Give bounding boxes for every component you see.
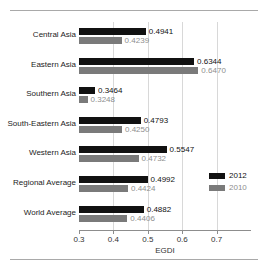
- bottom-divider: [10, 259, 258, 260]
- legend-item-2010[interactable]: 2010: [209, 183, 259, 193]
- legend-swatch-icon: [209, 173, 225, 179]
- bar-value-label: 0.4992: [151, 175, 175, 184]
- plot-area: Central Asia0.49410.4239Eastern Asia0.63…: [79, 22, 251, 230]
- chart-legend: 20122010: [209, 171, 259, 195]
- bar-2010: [79, 126, 122, 133]
- bar-2010: [79, 67, 198, 74]
- bar-group: World Average0.48820.4406: [79, 204, 251, 230]
- category-label: Southern Asia: [0, 89, 76, 99]
- bar-group: Eastern Asia0.63440.6470: [79, 56, 251, 82]
- bar-2010: [79, 215, 127, 222]
- bar-2010: [79, 185, 128, 192]
- legend-swatch-icon: [209, 185, 225, 191]
- x-axis-line: [79, 230, 251, 231]
- bar-2012: [79, 117, 141, 124]
- x-tick: [148, 230, 149, 234]
- bar-group: Southern Asia0.34640.3248: [79, 85, 251, 111]
- x-tick: [217, 230, 218, 234]
- category-label: Central Asia: [0, 30, 76, 40]
- legend-label: 2012: [229, 170, 247, 181]
- bar-2010: [79, 155, 139, 162]
- bar-2010: [79, 96, 88, 103]
- bar-group: South-Eastern Asia0.47930.4250: [79, 115, 251, 141]
- bar-group: Central Asia0.49410.4239: [79, 26, 251, 52]
- category-label: Regional Average: [0, 178, 76, 188]
- bar-value-label: 0.3248: [91, 95, 115, 104]
- bar-2010: [79, 37, 122, 44]
- bar-value-label: 0.4406: [130, 214, 154, 223]
- top-divider: [10, 10, 258, 11]
- bar-2012: [79, 176, 148, 183]
- bar-2012: [79, 146, 167, 153]
- bar-2012: [79, 87, 95, 94]
- category-label: South-Eastern Asia: [0, 119, 76, 129]
- x-axis-title: EGDI: [79, 246, 251, 255]
- x-tick: [182, 230, 183, 234]
- bar-value-label: 0.4793: [144, 116, 168, 125]
- bar-value-label: 0.3464: [98, 86, 122, 95]
- x-tick: [79, 230, 80, 234]
- legend-label: 2010: [229, 182, 247, 193]
- bar-value-label: 0.4732: [142, 154, 166, 163]
- bar-value-label: 0.4250: [125, 125, 149, 134]
- bar-value-label: 0.4882: [147, 205, 171, 214]
- legend-item-2012[interactable]: 2012: [209, 171, 259, 181]
- x-tick: [113, 230, 114, 234]
- bar-2012: [79, 58, 194, 65]
- bar-value-label: 0.6344: [197, 57, 221, 66]
- x-tick-label: 0.5: [142, 235, 153, 244]
- category-label: Western Asia: [0, 148, 76, 158]
- bar-value-label: 0.4239: [125, 36, 149, 45]
- bar-2012: [79, 28, 146, 35]
- x-tick-label: 0.3: [73, 235, 84, 244]
- bar-value-label: 0.4941: [149, 27, 173, 36]
- x-tick-label: 0.6: [177, 235, 188, 244]
- bar-group: Western Asia0.55470.4732: [79, 144, 251, 170]
- category-label: Eastern Asia: [0, 60, 76, 70]
- chart-figure: Central Asia0.49410.4239Eastern Asia0.63…: [0, 0, 267, 272]
- x-tick-label: 0.7: [211, 235, 222, 244]
- category-label: World Average: [0, 208, 76, 218]
- bar-value-label: 0.6470: [201, 66, 225, 75]
- x-tick-label: 0.4: [108, 235, 119, 244]
- bar-value-label: 0.5547: [170, 145, 194, 154]
- bar-2012: [79, 206, 144, 213]
- bar-value-label: 0.4424: [131, 184, 155, 193]
